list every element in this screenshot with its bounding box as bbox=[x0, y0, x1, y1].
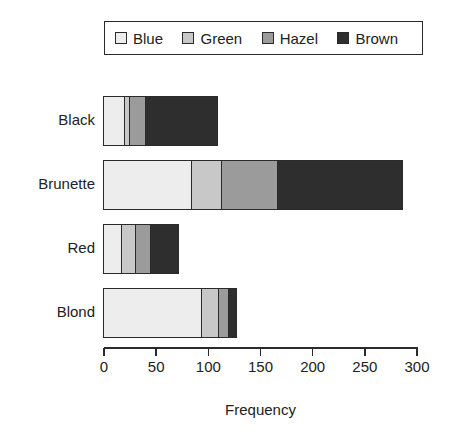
x-axis-tick-label: 100 bbox=[186, 358, 230, 376]
legend-item-blue: Blue bbox=[115, 31, 163, 46]
bar-segment-red-brown bbox=[151, 225, 178, 273]
bar-segment-black-blue bbox=[104, 97, 125, 145]
x-axis-tick bbox=[260, 348, 262, 356]
category-label-brunette: Brunette bbox=[0, 175, 95, 193]
category-label-red: Red bbox=[0, 239, 95, 257]
x-axis-tick bbox=[208, 348, 210, 356]
legend-label: Brown bbox=[355, 31, 398, 46]
x-axis-tick bbox=[416, 348, 418, 356]
category-label-blond: Blond bbox=[0, 303, 95, 321]
bar-black bbox=[103, 96, 218, 146]
x-axis-tick bbox=[312, 348, 314, 356]
x-axis-tick-label: 250 bbox=[343, 358, 387, 376]
bar-segment-black-brown bbox=[146, 97, 217, 145]
bar-segment-blond-green bbox=[202, 289, 219, 337]
x-axis-title: Frequency bbox=[104, 401, 417, 418]
legend-item-hazel: Hazel bbox=[262, 31, 318, 46]
hair-eye-color-chart: BlueGreenHazelBrown BlackBrunetteRedBlon… bbox=[0, 0, 453, 443]
bar-segment-blond-hazel bbox=[219, 289, 229, 337]
bar-segment-black-hazel bbox=[130, 97, 146, 145]
bar-red bbox=[103, 224, 179, 274]
category-label-black: Black bbox=[0, 111, 95, 129]
legend: BlueGreenHazelBrown bbox=[104, 21, 423, 55]
bar-segment-brunette-green bbox=[192, 161, 222, 209]
legend-swatch-brown bbox=[337, 32, 349, 44]
x-axis-tick bbox=[103, 348, 105, 356]
bar-segment-brunette-blue bbox=[104, 161, 192, 209]
bar-segment-red-green bbox=[122, 225, 137, 273]
x-axis-tick bbox=[155, 348, 157, 356]
legend-swatch-blue bbox=[115, 32, 127, 44]
x-axis-tick-label: 300 bbox=[395, 358, 439, 376]
x-axis-tick-label: 200 bbox=[291, 358, 335, 376]
legend-swatch-green bbox=[182, 32, 194, 44]
legend-swatch-hazel bbox=[262, 32, 274, 44]
bar-brunette bbox=[103, 160, 403, 210]
bar-segment-brunette-hazel bbox=[222, 161, 278, 209]
legend-item-brown: Brown bbox=[337, 31, 398, 46]
legend-item-green: Green bbox=[182, 31, 242, 46]
x-axis-tick-label: 50 bbox=[134, 358, 178, 376]
bar-segment-red-hazel bbox=[136, 225, 151, 273]
x-axis-tick bbox=[364, 348, 366, 356]
bar-segment-blond-blue bbox=[104, 289, 202, 337]
x-axis-tick-label: 150 bbox=[239, 358, 283, 376]
bar-segment-brunette-brown bbox=[278, 161, 402, 209]
legend-label: Hazel bbox=[280, 31, 318, 46]
legend-label: Blue bbox=[133, 31, 163, 46]
bar-segment-blond-brown bbox=[229, 289, 236, 337]
bar-segment-red-blue bbox=[104, 225, 122, 273]
bar-blond bbox=[103, 288, 237, 338]
x-axis-tick-label: 0 bbox=[82, 358, 126, 376]
legend-label: Green bbox=[200, 31, 242, 46]
